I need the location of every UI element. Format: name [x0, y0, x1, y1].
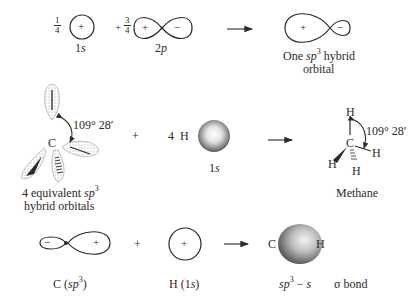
orbitals-label-line2: hybrid orbitals — [24, 200, 94, 212]
h-1s-sign: + — [181, 238, 187, 249]
methane-angle-label: 109° 28′ — [366, 125, 406, 137]
coefficient-three-quarters: 34 — [124, 16, 131, 35]
coefficient-one-quarter: 14 — [54, 16, 61, 35]
p-orbital-neg-sign: − — [174, 22, 180, 33]
angle-arrow-1 — [62, 118, 72, 142]
p-orbital-pos-sign: + — [142, 22, 148, 33]
sigma-bond-label: σ bond — [334, 278, 367, 290]
plus-sign-row2: + — [132, 130, 139, 142]
h-1s-bottom-label: H (1s) — [169, 278, 199, 290]
bond-h-atom: H — [316, 238, 325, 250]
hydrogen-count-label: 4 H — [168, 130, 189, 142]
c-sp3-label: C (sp3) — [53, 278, 87, 290]
methane-carbon: C — [346, 137, 354, 149]
p-orbital-label: 2p — [155, 42, 167, 54]
diagram-canvas — [0, 0, 420, 299]
orbitals-label-line1: 4 equivalent sp3 — [22, 187, 99, 199]
methane-h-top: H — [346, 106, 355, 118]
bond-c-atom: C — [268, 238, 276, 250]
s-orbital-label: 1s — [75, 42, 86, 54]
hybrid-neg-sign: − — [337, 22, 343, 33]
plus-sign-coef: + — [115, 22, 121, 33]
methane-h-right: H — [372, 147, 381, 159]
hybrid-label-line1: One sp3 hybrid — [283, 50, 355, 62]
c-sp3-orbital — [40, 232, 110, 255]
s-orbital-sign: + — [78, 21, 84, 32]
bond-type-label: sp3 − s — [279, 278, 311, 290]
methane-h-left: H — [328, 158, 337, 170]
angle-label-orbitals: 109° 28′ — [73, 119, 113, 131]
c-sp3-neg-sign: − — [44, 237, 50, 248]
hybrid-pos-sign: + — [300, 22, 306, 33]
h-1s-sphere — [198, 120, 230, 152]
methane-h-bottom: H — [352, 165, 361, 177]
c-sp3-pos-sign: + — [93, 237, 99, 248]
plus-sign-row3: + — [134, 238, 141, 250]
hybrid-label-line2: orbital — [303, 63, 334, 75]
h-1s-label: 1s — [209, 162, 220, 174]
four-sp3-orbitals — [22, 84, 99, 182]
carbon-label: C — [48, 137, 56, 149]
methane-name: Methane — [336, 187, 378, 199]
